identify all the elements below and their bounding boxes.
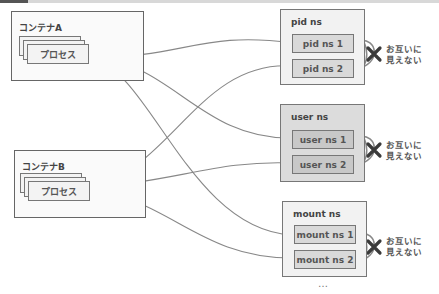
- mount-ns-title: mount ns: [293, 209, 341, 219]
- mount-ns-note: お互いに 見えない: [386, 236, 422, 258]
- note-line-1: お互いに: [386, 140, 422, 151]
- pid-ns-box: pid ns pid ns 1 pid ns 2: [280, 9, 365, 85]
- note-line-2: 見えない: [386, 247, 422, 258]
- pid-ns-2: pid ns 2: [292, 59, 354, 78]
- user-ns-box: user ns user ns 1 user ns 2: [280, 104, 365, 182]
- note-line-1: お互いに: [386, 44, 422, 55]
- user-ns-title: user ns: [291, 112, 328, 122]
- cross-icon: [368, 48, 380, 253]
- mount-ns-box: mount ns mount ns 1 mount ns 2: [282, 201, 367, 277]
- user-ns-note: お互いに 見えない: [386, 140, 422, 162]
- note-line-2: 見えない: [386, 151, 422, 162]
- user-ns-1: user ns 1: [292, 130, 354, 149]
- process-a: プロセス: [27, 44, 89, 64]
- pid-ns-note: お互いに 見えない: [386, 44, 422, 66]
- container-b-title: コンテナB: [22, 160, 65, 173]
- note-line-2: 見えない: [386, 55, 422, 66]
- process-b: プロセス: [28, 181, 90, 201]
- pid-ns-title: pid ns: [291, 17, 322, 27]
- ellipsis: …: [318, 278, 329, 289]
- note-line-1: お互いに: [386, 236, 422, 247]
- container-a-title: コンテナA: [19, 21, 62, 34]
- pid-ns-1: pid ns 1: [292, 34, 354, 53]
- user-ns-2: user ns 2: [292, 155, 354, 174]
- mount-ns-1: mount ns 1: [294, 225, 356, 244]
- mount-ns-2: mount ns 2: [294, 250, 356, 269]
